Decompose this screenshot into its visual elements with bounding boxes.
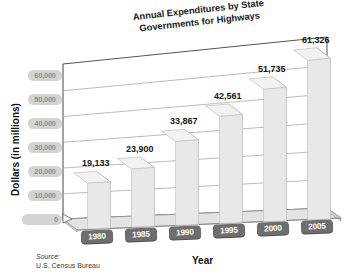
y-axis-tick-20000: 20,000 [28,166,62,177]
x-axis-tick-1995: 1995 [213,223,246,237]
x-axis-tick-1985: 1985 [125,227,158,241]
y-axis-title: Dollars (in millions) [10,90,21,210]
x-axis-tick-2000: 2000 [257,222,290,236]
x-axis-tick-2005: 2005 [301,220,334,234]
value-label-1985: 23,900 [126,144,154,154]
y-axis-tick-50000: 50,000 [28,94,62,105]
value-label-1995: 42,561 [214,91,242,101]
x-axis-tick-1990: 1990 [169,225,202,239]
chart-figure: Annual Expenditures by State Governments… [0,0,347,280]
y-axis-tick-30000: 30,000 [28,142,62,153]
x-axis-title: Year [192,255,213,266]
y-axis-tick-0: 0 [22,214,62,225]
source-text: U.S. Census Bureau [36,261,100,270]
value-label-2000: 51,735 [258,64,286,74]
value-label-1990: 33,867 [170,116,198,126]
source-label: Source: [36,252,100,261]
x-axis-tick-1980: 1980 [81,229,114,243]
value-label-2005: 61,326 [302,35,330,45]
y-axis-tick-60000: 60,000 [28,70,62,81]
value-label-1980: 19,133 [82,158,110,168]
source-note: Source: U.S. Census Bureau [36,252,100,270]
y-axis-tick-10000: 10,000 [28,190,62,201]
y-axis-tick-40000: 40,000 [28,118,62,129]
